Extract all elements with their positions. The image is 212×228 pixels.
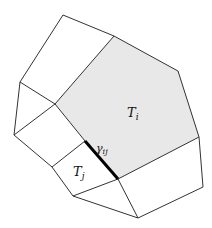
label-t-j: Tj bbox=[73, 164, 85, 181]
mesh-svg: Ti Tj γij bbox=[0, 0, 212, 228]
mesh-diagram: Ti Tj γij bbox=[0, 0, 212, 228]
